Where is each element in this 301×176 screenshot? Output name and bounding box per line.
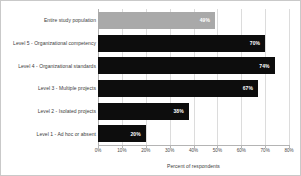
- bar-row: 74%: [98, 57, 289, 74]
- bar-row: 38%: [98, 103, 289, 120]
- gridline: [289, 9, 290, 145]
- category-label: Entire study population: [4, 17, 96, 23]
- x-axis-title: Percent of respondents: [98, 163, 289, 169]
- tick-label: 30%: [165, 148, 174, 153]
- bar-value-label: 38%: [173, 108, 183, 114]
- plot-area: 49%70%74%67%38%20%: [98, 9, 289, 145]
- bar-row: 20%: [98, 125, 289, 142]
- bar-value-label: 70%: [250, 40, 260, 46]
- bar-chart-figure: 49%70%74%67%38%20% Entire study populati…: [0, 0, 301, 176]
- bar[interactable]: 67%: [98, 80, 258, 97]
- tick-label: 0%: [95, 148, 102, 153]
- category-axis-labels: Entire study populationLevel 5 - Organiz…: [1, 9, 96, 145]
- category-label: Level 4 - Organizational standards: [4, 63, 96, 69]
- bar-value-label: 20%: [130, 131, 140, 137]
- bar-value-label: 67%: [243, 85, 253, 91]
- bar[interactable]: 70%: [98, 35, 265, 52]
- category-label: Level 2 - Isolated projects: [4, 108, 96, 114]
- bar-row: 49%: [98, 12, 289, 29]
- tick-label: 40%: [189, 148, 198, 153]
- tick-label: 70%: [261, 148, 270, 153]
- category-label: Level 5 - Organizational competency: [4, 40, 96, 46]
- tick-label: 80%: [284, 148, 293, 153]
- bar-value-label: 74%: [259, 63, 269, 69]
- bar[interactable]: 20%: [98, 125, 146, 142]
- bar-row: 67%: [98, 80, 289, 97]
- tick-label: 20%: [141, 148, 150, 153]
- category-label: Level 3 - Multiple projects: [4, 85, 96, 91]
- bar[interactable]: 49%: [98, 12, 215, 29]
- bar-row: 70%: [98, 35, 289, 52]
- category-label: Level 1 - Ad hoc or absent: [4, 131, 96, 137]
- bar-value-label: 49%: [200, 17, 210, 23]
- tick-label: 60%: [237, 148, 246, 153]
- tick-label: 50%: [213, 148, 222, 153]
- bar[interactable]: 74%: [98, 57, 275, 74]
- x-axis-tick-labels: 0%10%20%30%40%50%60%70%80%: [98, 148, 289, 158]
- bar[interactable]: 38%: [98, 103, 189, 120]
- tick-label: 10%: [117, 148, 126, 153]
